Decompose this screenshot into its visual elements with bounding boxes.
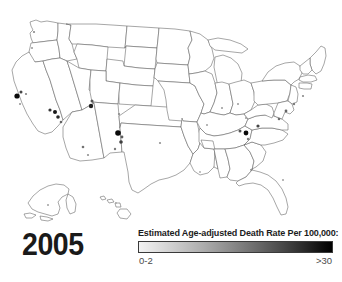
county-marker <box>115 202 117 204</box>
county-marker <box>159 142 161 144</box>
county-marker <box>247 138 249 140</box>
choropleth-figure: 2005 Estimated Age-adjusted Death Rate P… <box>0 0 342 282</box>
legend-gradient-bar <box>138 241 333 253</box>
legend-max-label: >30 <box>316 255 332 267</box>
map-svg <box>0 0 342 232</box>
county-marker <box>245 117 247 119</box>
county-marker <box>119 140 123 144</box>
county-marker <box>302 95 304 97</box>
county-marker <box>91 100 94 103</box>
county-marker <box>121 136 124 139</box>
county-marker <box>47 204 49 206</box>
county-marker <box>278 118 281 121</box>
legend-title: Estimated Age-adjusted Death Rate Per 10… <box>138 228 328 239</box>
county-marker <box>256 124 259 127</box>
county-marker <box>33 31 35 33</box>
county-marker <box>239 130 242 133</box>
county-marker <box>48 108 51 111</box>
county-marker <box>87 154 89 156</box>
county-marker <box>82 146 85 149</box>
county-marker <box>115 130 121 136</box>
county-marker <box>56 115 60 119</box>
county-marker <box>282 179 284 181</box>
county-marker <box>221 107 223 109</box>
state-outlines <box>12 20 326 221</box>
legend: Estimated Age-adjusted Death Rate Per 10… <box>138 228 334 268</box>
us-county-map <box>0 0 342 232</box>
county-marker <box>237 103 239 105</box>
county-marker <box>114 148 116 150</box>
legend-min-label: 0-2 <box>139 255 153 267</box>
county-marker <box>60 121 63 124</box>
county-marker <box>293 103 295 105</box>
county-marker <box>31 47 33 49</box>
county-marker <box>14 93 19 98</box>
county-marker <box>53 110 57 114</box>
county-marker <box>206 124 208 126</box>
county-marker <box>118 113 120 115</box>
county-marker <box>89 104 93 108</box>
county-marker <box>285 110 288 113</box>
year-label: 2005 <box>22 229 84 260</box>
county-marker <box>19 103 21 105</box>
county-marker <box>244 131 249 136</box>
county-marker <box>199 171 201 173</box>
county-marker <box>20 91 23 94</box>
county-marker <box>25 93 27 95</box>
legend-scale: 0-2 >30 <box>138 255 334 268</box>
